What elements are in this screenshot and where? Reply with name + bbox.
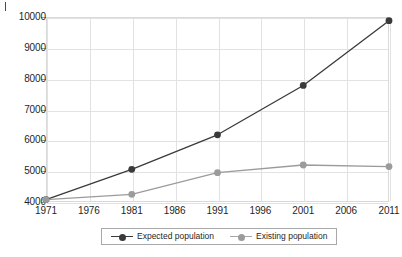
x-axis-tick-label: 1986 [155, 206, 195, 216]
x-axis-tick-label: 1981 [112, 206, 152, 216]
legend-label-expected: Expected population [137, 232, 214, 241]
legend-label-existing: Existing population [256, 232, 327, 241]
gridline-vertical [390, 18, 391, 201]
x-axis-tick-label: 2001 [283, 206, 323, 216]
data-point-marker [214, 131, 221, 138]
legend-marker-expected-icon [111, 233, 133, 241]
x-axis-tick-label: 1976 [69, 206, 109, 216]
data-point-marker [300, 162, 307, 169]
data-point-marker [214, 169, 221, 176]
y-axis-tick-label: 6000 [0, 135, 46, 145]
data-point-marker [128, 191, 135, 198]
legend-item-expected-population: Expected population [111, 232, 214, 241]
data-point-marker [43, 196, 50, 203]
y-axis-tick-label: 8000 [0, 74, 46, 84]
data-point-marker [386, 163, 393, 170]
x-axis-tick-label: 1971 [26, 206, 66, 216]
x-axis-tick-label: 1996 [240, 206, 280, 216]
y-axis-tick-label: 5000 [0, 166, 46, 176]
data-point-marker [128, 166, 135, 173]
legend-item-existing-population: Existing population [230, 232, 327, 241]
chart-legend: Expected population Existing population [101, 228, 337, 245]
y-axis-tick-label: 10000 [0, 12, 46, 22]
population-line-chart: 40005000600070008000900010000 1971197619… [0, 0, 402, 257]
corner-tick-mark [5, 2, 6, 11]
legend-marker-existing-icon [230, 233, 252, 241]
data-point-marker [386, 17, 393, 24]
x-axis-tick-label: 1991 [198, 206, 238, 216]
x-axis-tick-label: 2011 [369, 206, 402, 216]
series-layer [46, 17, 389, 202]
y-axis-tick-label: 7000 [0, 105, 46, 115]
gridline-horizontal [47, 203, 388, 204]
data-point-marker [300, 82, 307, 89]
x-axis-tick-label: 2006 [326, 206, 366, 216]
y-axis-tick-label: 9000 [0, 43, 46, 53]
